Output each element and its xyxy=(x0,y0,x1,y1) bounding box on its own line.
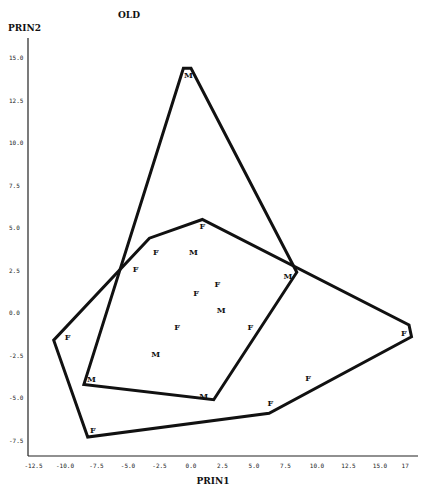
x-tick-label: 12.5 xyxy=(341,462,356,469)
y-tick-labels: 15.012.510.07.55.02.50.0-2.5-5.0-7.5 xyxy=(9,54,24,444)
hull-m xyxy=(84,68,297,400)
point-marker-f: F xyxy=(174,322,180,332)
chart-title: OLD xyxy=(118,10,140,20)
hull-f xyxy=(54,220,412,438)
convex-hulls xyxy=(54,68,412,437)
point-marker-f: F xyxy=(153,247,159,257)
x-tick-label: -5.0 xyxy=(121,462,136,469)
point-marker-f: F xyxy=(193,288,199,298)
point-marker-m: M xyxy=(151,349,160,359)
y-tick-label: 10.0 xyxy=(9,139,24,146)
point-marker-f: F xyxy=(401,328,407,338)
x-tick-label: 17 xyxy=(402,462,410,469)
y-tick-label: -2.5 xyxy=(9,352,24,359)
x-tick-label: 5.0 xyxy=(249,462,260,469)
x-tick-label: 7.5 xyxy=(280,462,291,469)
y-tick-label: 0.0 xyxy=(9,309,20,316)
data-points: MMMMMMMFFFFFFFFFFFF xyxy=(65,70,407,435)
x-tick-label: 2.5 xyxy=(217,462,228,469)
x-tick-labels: -12.5-10.0-7.5-5.0-2.50.02.55.07.510.012… xyxy=(24,462,409,469)
point-marker-f: F xyxy=(199,221,205,231)
y-axis-label: PRIN2 xyxy=(8,23,41,33)
point-marker-f: F xyxy=(215,279,221,289)
x-tick-label: -10.0 xyxy=(56,462,74,469)
point-marker-m: M xyxy=(284,271,293,281)
y-tick-label: 5.0 xyxy=(9,224,20,231)
x-tick-label: -7.5 xyxy=(89,462,104,469)
y-tick-label: -5.0 xyxy=(9,394,24,401)
point-marker-m: M xyxy=(217,305,226,315)
x-tick-label: 15.0 xyxy=(373,462,388,469)
x-tick-label: 10.0 xyxy=(310,462,325,469)
point-marker-f: F xyxy=(65,332,71,342)
x-tick-label: -2.5 xyxy=(152,462,167,469)
point-marker-f: F xyxy=(268,398,274,408)
x-tick-label: -12.5 xyxy=(24,462,42,469)
point-marker-f: F xyxy=(247,322,253,332)
point-marker-m: M xyxy=(184,70,193,80)
y-tick-label: 2.5 xyxy=(9,267,20,274)
point-marker-m: M xyxy=(199,391,208,401)
point-marker-m: M xyxy=(189,247,198,257)
y-tick-label: -7.5 xyxy=(9,437,24,444)
point-marker-m: M xyxy=(87,374,96,384)
point-marker-f: F xyxy=(133,264,139,274)
x-axis-label: PRIN1 xyxy=(197,476,230,486)
x-tick-label: 0.0 xyxy=(186,462,197,469)
y-tick-label: 12.5 xyxy=(9,97,24,104)
point-marker-f: F xyxy=(305,373,311,383)
scatter-chart: OLD PRIN2 PRIN1 -12.5-10.0-7.5-5.0-2.50.… xyxy=(0,0,428,494)
y-tick-label: 15.0 xyxy=(9,54,24,61)
y-tick-label: 7.5 xyxy=(9,182,20,189)
point-marker-f: F xyxy=(90,425,96,435)
